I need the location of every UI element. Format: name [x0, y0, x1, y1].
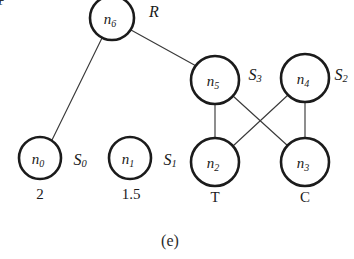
figure-container: n6 n5 n4 n0	[0, 0, 354, 259]
side-label-n6: R	[148, 3, 159, 20]
side-label-sub-n4: 2	[342, 73, 348, 84]
node-base-n4: n	[297, 71, 305, 87]
node-n1[interactable]: n1	[109, 137, 151, 179]
edge-label-minus: −	[0, 0, 4, 8]
node-sub-n6: 6	[111, 18, 116, 29]
side-label-n5: S3	[248, 66, 261, 84]
node-base-n5: n	[207, 73, 215, 89]
node-n5[interactable]: n5	[191, 56, 239, 104]
side-label-base-n4: S	[334, 66, 342, 83]
node-base-n6: n	[104, 11, 112, 27]
side-label-n0: S0	[73, 151, 87, 169]
node-n4[interactable]: n4	[281, 54, 329, 102]
side-label-n1: S1	[163, 151, 176, 169]
side-label-base-n1: S	[163, 151, 171, 168]
node-base-n0: n	[32, 151, 40, 167]
node-sub-n3: 3	[303, 162, 309, 173]
node-sub-n0: 0	[39, 158, 44, 169]
side-label-n4: S2	[334, 66, 348, 84]
figure-caption: (e)	[161, 232, 179, 250]
side-label-base-n0: S	[73, 151, 81, 168]
side-label-sub-n5: 3	[255, 73, 261, 84]
value-label-group: 2 1.5 T C	[36, 186, 310, 205]
node-base-n2: n	[207, 155, 215, 171]
side-label-sub-n1: 1	[171, 158, 176, 169]
graph-diagram: n6 n5 n4 n0	[0, 0, 354, 259]
node-n0[interactable]: n0	[19, 137, 61, 179]
side-label-base-n6: R	[148, 3, 159, 20]
edge-group	[52, 30, 305, 146]
edge-n6-n5	[131, 30, 198, 67]
node-sub-n1: 1	[129, 158, 134, 169]
value-label-n3: C	[300, 189, 310, 205]
node-base-n3: n	[297, 155, 305, 171]
value-label-n1: 1.5	[122, 186, 141, 202]
value-label-n0: 2	[36, 186, 44, 202]
node-sub-n4: 4	[304, 78, 309, 89]
node-n3[interactable]: n3	[281, 138, 329, 186]
node-base-n1: n	[122, 151, 130, 167]
side-label-sub-n0: 0	[81, 158, 87, 169]
edge-label-group: 1 + −	[0, 0, 4, 8]
node-n2[interactable]: n2	[191, 138, 239, 186]
edge-n6-n0	[52, 38, 102, 140]
node-sub-n5: 5	[214, 80, 219, 91]
value-label-n2: T	[210, 189, 219, 205]
side-label-base-n5: S	[248, 66, 256, 83]
node-n6[interactable]: n6	[90, 0, 134, 40]
node-sub-n2: 2	[214, 162, 219, 173]
